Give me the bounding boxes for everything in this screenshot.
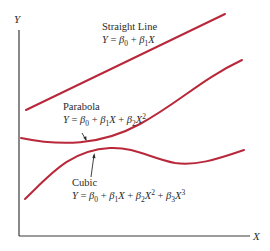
straight-line-equation: Y = β0 + β1X: [102, 34, 155, 48]
parabola-pointer-arrow: [82, 133, 87, 141]
regression-shapes-diagram: Y X Straight Line Y = β0 + β1X Parabola …: [0, 0, 270, 251]
cubic-name: Cubic: [72, 177, 97, 188]
parabola-equation: Y = β0 + β1X + β2X2: [63, 112, 146, 128]
straight-line-name: Straight Line: [102, 21, 157, 32]
parabola-name: Parabola: [63, 101, 100, 112]
cubic-pointer-arrow: [91, 153, 96, 177]
y-axis-label: Y: [14, 13, 22, 25]
x-axis-label: X: [252, 230, 261, 242]
cubic-equation: Y = β0 + β1X + β2X2 + β3X3: [72, 188, 185, 204]
parabola-curve: [21, 60, 242, 143]
